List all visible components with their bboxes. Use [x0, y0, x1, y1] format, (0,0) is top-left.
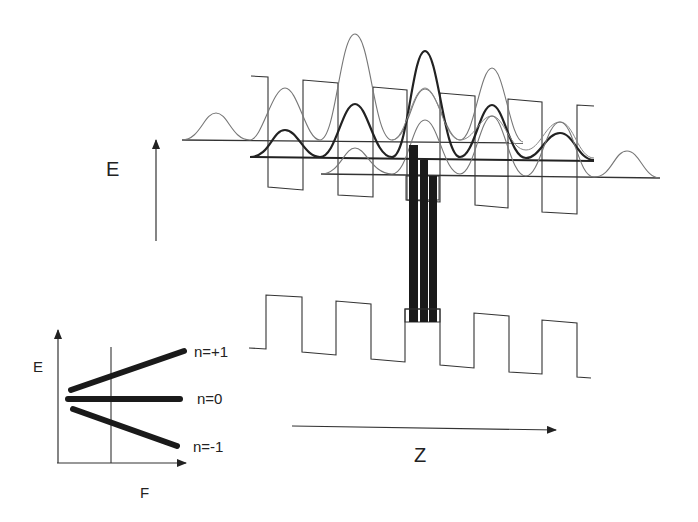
- inset-label-n-minus-1: n=-1: [193, 438, 223, 455]
- energy-axis-label: E: [106, 158, 119, 180]
- inset-x-label: F: [140, 484, 149, 501]
- transition-bar-n0: [420, 160, 428, 322]
- wavefunction-n-minus-1: [182, 34, 523, 142]
- inset-label-n-plus-1: n=+1: [194, 343, 228, 360]
- wavefunction-n-plus-1: [321, 116, 660, 178]
- inset-level-n-plus-1: [71, 351, 184, 390]
- inset-y-label: E: [33, 358, 43, 375]
- wannier-stark-diagram: E Z E F n=+1 n=0 n=-1: [0, 0, 698, 522]
- inset-level-n-minus-1: [73, 409, 177, 446]
- transition-bar-n-minus-1: [429, 176, 437, 322]
- inset-plot: E F n=+1 n=0 n=-1: [33, 330, 228, 501]
- baseline-n-plus-1: [321, 174, 660, 178]
- inset-label-n0: n=0: [197, 390, 222, 407]
- transition-bar-n-plus-1: [409, 145, 418, 322]
- position-axis-arrow: [292, 426, 556, 430]
- position-axis-label: Z: [414, 444, 426, 466]
